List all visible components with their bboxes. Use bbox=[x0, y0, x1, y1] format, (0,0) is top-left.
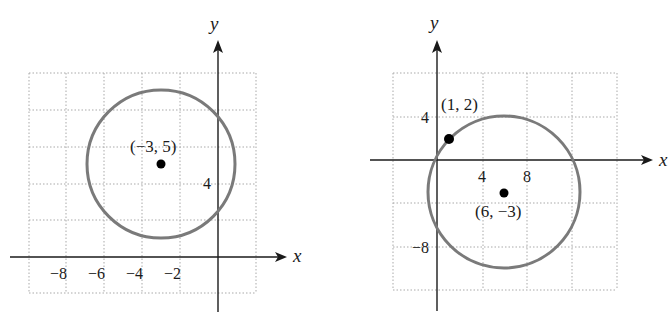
right-y-tick: 4 bbox=[421, 109, 429, 126]
left-y-tick: 4 bbox=[203, 175, 211, 192]
left-x-tick: −2 bbox=[164, 265, 181, 282]
left-graph: x y −8 −6 −4 −2 4 (−3, 5) bbox=[10, 13, 302, 312]
right-point-label: (1, 2) bbox=[441, 95, 478, 114]
right-y-tick: −8 bbox=[412, 239, 429, 256]
right-graph: x y 4 8 4 −8 (1, 2) (6, −3) bbox=[370, 12, 668, 311]
left-center-point bbox=[157, 160, 166, 169]
right-circle-point bbox=[444, 134, 454, 144]
left-x-tick: −6 bbox=[88, 265, 105, 282]
right-center-point bbox=[500, 189, 509, 198]
right-x-tick: 4 bbox=[478, 168, 486, 185]
right-x-axis-label: x bbox=[658, 149, 668, 170]
left-x-axis-label: x bbox=[292, 245, 302, 266]
figure-canvas: x y −8 −6 −4 −2 4 (−3, 5) x y bbox=[0, 0, 669, 320]
left-grid bbox=[29, 73, 256, 293]
right-x-tick: 8 bbox=[523, 168, 531, 185]
left-y-axis-label: y bbox=[208, 13, 219, 34]
right-grid bbox=[393, 73, 617, 290]
left-center-label: (−3, 5) bbox=[130, 137, 176, 156]
right-center-label: (6, −3) bbox=[475, 202, 521, 221]
right-y-axis-label: y bbox=[428, 12, 439, 33]
left-x-tick: −4 bbox=[126, 265, 143, 282]
left-x-tick: −8 bbox=[50, 265, 67, 282]
